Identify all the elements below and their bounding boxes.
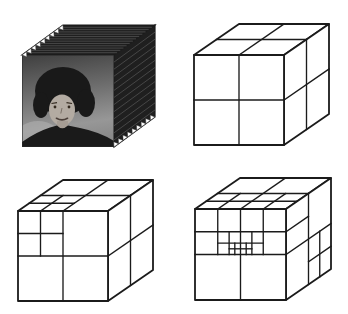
hair-right <box>77 89 95 117</box>
figure-drawing-surface <box>0 0 348 314</box>
eye-right <box>68 106 71 109</box>
octree-cube-level-2 <box>18 180 153 301</box>
eye-left <box>54 106 57 109</box>
portrait-frame-photo <box>16 55 114 151</box>
octree-figure <box>0 0 348 314</box>
face <box>49 95 75 126</box>
octree-cube-level-1 <box>194 24 329 145</box>
octree-cube-level-3 <box>195 178 331 300</box>
hair-left <box>33 92 49 118</box>
video-sequence-cube <box>16 25 155 151</box>
